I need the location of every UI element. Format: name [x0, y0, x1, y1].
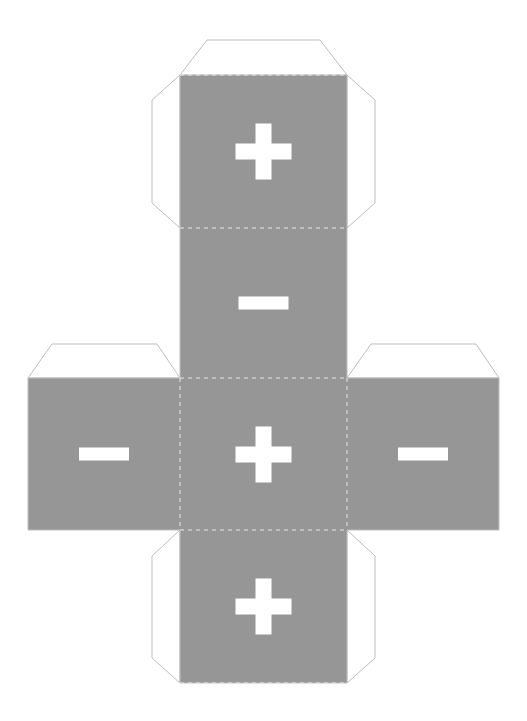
upper-left-glue-flap	[152, 75, 180, 228]
bottom-left-glue-flap	[152, 530, 180, 683]
upper-right-glue-flap	[347, 75, 375, 228]
right-arm-top-glue-flap	[347, 344, 499, 378]
left-arm-top-glue-flap	[28, 344, 180, 378]
cube-net-canvas	[0, 0, 527, 721]
minus-icon-right-face	[398, 448, 448, 461]
cube-net-diagram	[0, 0, 527, 721]
top-glue-flap	[180, 40, 347, 75]
bottom-right-glue-flap	[347, 530, 375, 683]
minus-icon-left-face	[79, 448, 129, 461]
minus-icon-upper-middle-face	[239, 297, 289, 310]
